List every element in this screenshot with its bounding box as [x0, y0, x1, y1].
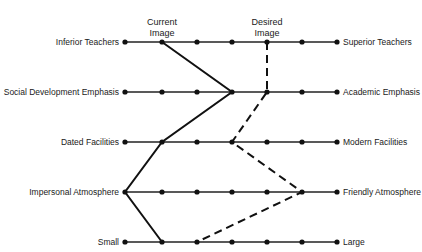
scale-point: [194, 89, 199, 94]
desired-header-line2: Image: [254, 28, 279, 38]
scale-point: [299, 89, 304, 94]
scale-point: [229, 39, 234, 44]
left-anchor-label: Inferior Teachers: [56, 37, 119, 47]
scale-row: [122, 239, 339, 244]
scale-point: [334, 189, 339, 194]
left-anchor-label: Small: [98, 237, 119, 247]
scale-row: [122, 39, 339, 44]
scale-point: [159, 189, 164, 194]
current-header-line2: Image: [149, 28, 174, 38]
left-anchor-label: Impersonal Atmosphere: [29, 187, 119, 197]
scale-point: [299, 139, 304, 144]
scale-point: [122, 39, 127, 44]
scale-point: [334, 89, 339, 94]
right-anchor-label: Modern Facilities: [343, 137, 407, 147]
left-anchor-label: Dated Facilities: [61, 137, 119, 147]
scale-point: [122, 139, 127, 144]
scale-point: [122, 239, 127, 244]
semantic-differential-diagram: Current Image Desired Image Inferior Tea…: [0, 0, 422, 252]
scale-point: [122, 89, 127, 94]
scale-point: [264, 139, 269, 144]
right-anchor-label: Superior Teachers: [343, 37, 412, 47]
scale-point: [194, 139, 199, 144]
scale-point: [229, 189, 234, 194]
scale-point: [264, 189, 269, 194]
scale-point: [194, 189, 199, 194]
scale-point: [299, 239, 304, 244]
scale-point: [334, 239, 339, 244]
right-anchor-label: Friendly Atmosphere: [343, 187, 421, 197]
scale-point: [334, 39, 339, 44]
right-anchor-label: Large: [343, 237, 365, 247]
right-anchor-label: Academic Emphasis: [343, 87, 420, 97]
scale-point: [229, 239, 234, 244]
column-headers: Current Image Desired Image: [147, 17, 283, 38]
scale-point: [334, 139, 339, 144]
scale-row: [122, 189, 339, 194]
left-anchor-label: Social Development Emphasis: [4, 87, 119, 97]
scale-point: [194, 39, 199, 44]
scale-point: [159, 89, 164, 94]
desired-header-line1: Desired: [251, 17, 282, 27]
current-header-line1: Current: [147, 17, 178, 27]
scale-point: [299, 39, 304, 44]
scale-point: [264, 239, 269, 244]
